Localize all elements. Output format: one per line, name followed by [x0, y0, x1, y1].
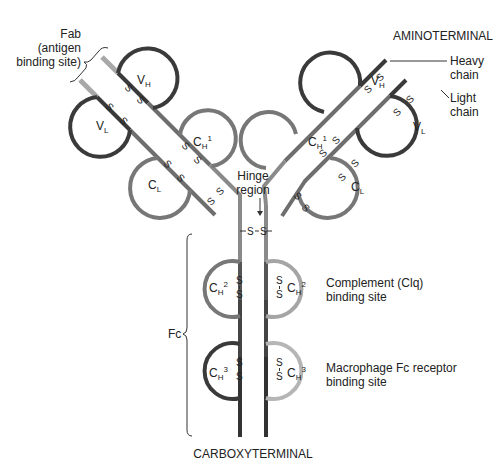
right-ch3-label: CH3 — [287, 365, 306, 382]
svg-text:S: S — [162, 158, 175, 171]
svg-text:Fab: Fab — [60, 27, 81, 41]
left-vh-label: VH — [137, 73, 151, 89]
svg-text:S: S — [391, 106, 404, 119]
left-heavy-chain — [102, 57, 240, 205]
right-vl-domain — [357, 96, 417, 156]
right-ch3-domain — [266, 343, 301, 399]
aminoterminal-label: AMINOTERMINAL — [393, 29, 493, 43]
svg-text:S: S — [135, 94, 148, 107]
svg-text:Heavy: Heavy — [450, 54, 484, 68]
svg-text:Hinge: Hinge — [237, 169, 269, 183]
svg-text:S: S — [104, 101, 117, 114]
antibody-diagram: .chain{fill:none;stroke-linecap:butt;str… — [0, 0, 497, 468]
svg-text:region: region — [236, 183, 269, 197]
right-ch1-label: CH1 — [308, 134, 327, 151]
left-ch2-label: CH2 — [209, 280, 228, 297]
svg-text:S: S — [236, 275, 243, 286]
svg-text:binding site: binding site — [326, 290, 387, 304]
left-ch1-label: CH1 — [193, 134, 212, 151]
svg-text:Fc: Fc — [168, 327, 181, 341]
svg-text:S: S — [260, 226, 267, 237]
svg-text:S: S — [118, 115, 131, 128]
svg-text:Macrophage Fc receptor: Macrophage Fc receptor — [326, 361, 457, 375]
carboxyterminal-label: CARBOXYTERMINAL — [193, 447, 313, 461]
svg-text:S: S — [247, 226, 254, 237]
svg-text:S: S — [192, 154, 205, 167]
svg-text:S: S — [236, 289, 243, 300]
left-cl-label: CL — [148, 178, 162, 194]
svg-text:S: S — [214, 185, 227, 198]
svg-text:chain: chain — [450, 105, 479, 119]
left-vh-domain — [118, 49, 177, 108]
svg-text:Light: Light — [450, 91, 477, 105]
left-vl-label: VL — [96, 119, 109, 135]
svg-text:Complement (Clq): Complement (Clq) — [326, 276, 423, 290]
right-cl-label: CL — [351, 180, 365, 196]
fc-brace — [183, 234, 192, 436]
svg-text:S: S — [276, 357, 283, 368]
left-ch3-label: CH3 — [209, 365, 228, 382]
svg-text:S: S — [180, 140, 193, 153]
right-vl-label: VL — [413, 120, 426, 136]
macrophage-annotation: Macrophage Fc receptor binding site — [326, 361, 457, 389]
right-ch2-label: CH2 — [287, 280, 306, 297]
svg-text:S: S — [236, 357, 243, 368]
svg-text:S: S — [276, 275, 283, 286]
svg-text:S: S — [236, 371, 243, 382]
svg-text:S: S — [276, 289, 283, 300]
svg-text:binding site: binding site — [326, 375, 387, 389]
svg-text:binding site): binding site) — [16, 55, 81, 69]
svg-text:S: S — [123, 82, 136, 95]
fab-annotation: Fab (antigen binding site) — [16, 27, 108, 82]
svg-text:chain: chain — [450, 68, 479, 82]
light-chain-annotation: Light chain — [441, 90, 479, 119]
right-heavy-chain — [264, 60, 386, 205]
svg-text:S: S — [336, 171, 349, 184]
complement-annotation: Complement (Clq) binding site — [326, 276, 423, 304]
fc-annotation: Fc — [168, 234, 192, 436]
heavy-chain-annotation: Heavy chain — [390, 54, 484, 82]
svg-text:S: S — [175, 172, 188, 185]
svg-text:(antigen: (antigen — [38, 41, 81, 55]
right-vh-domain — [300, 53, 360, 112]
svg-text:S: S — [276, 371, 283, 382]
